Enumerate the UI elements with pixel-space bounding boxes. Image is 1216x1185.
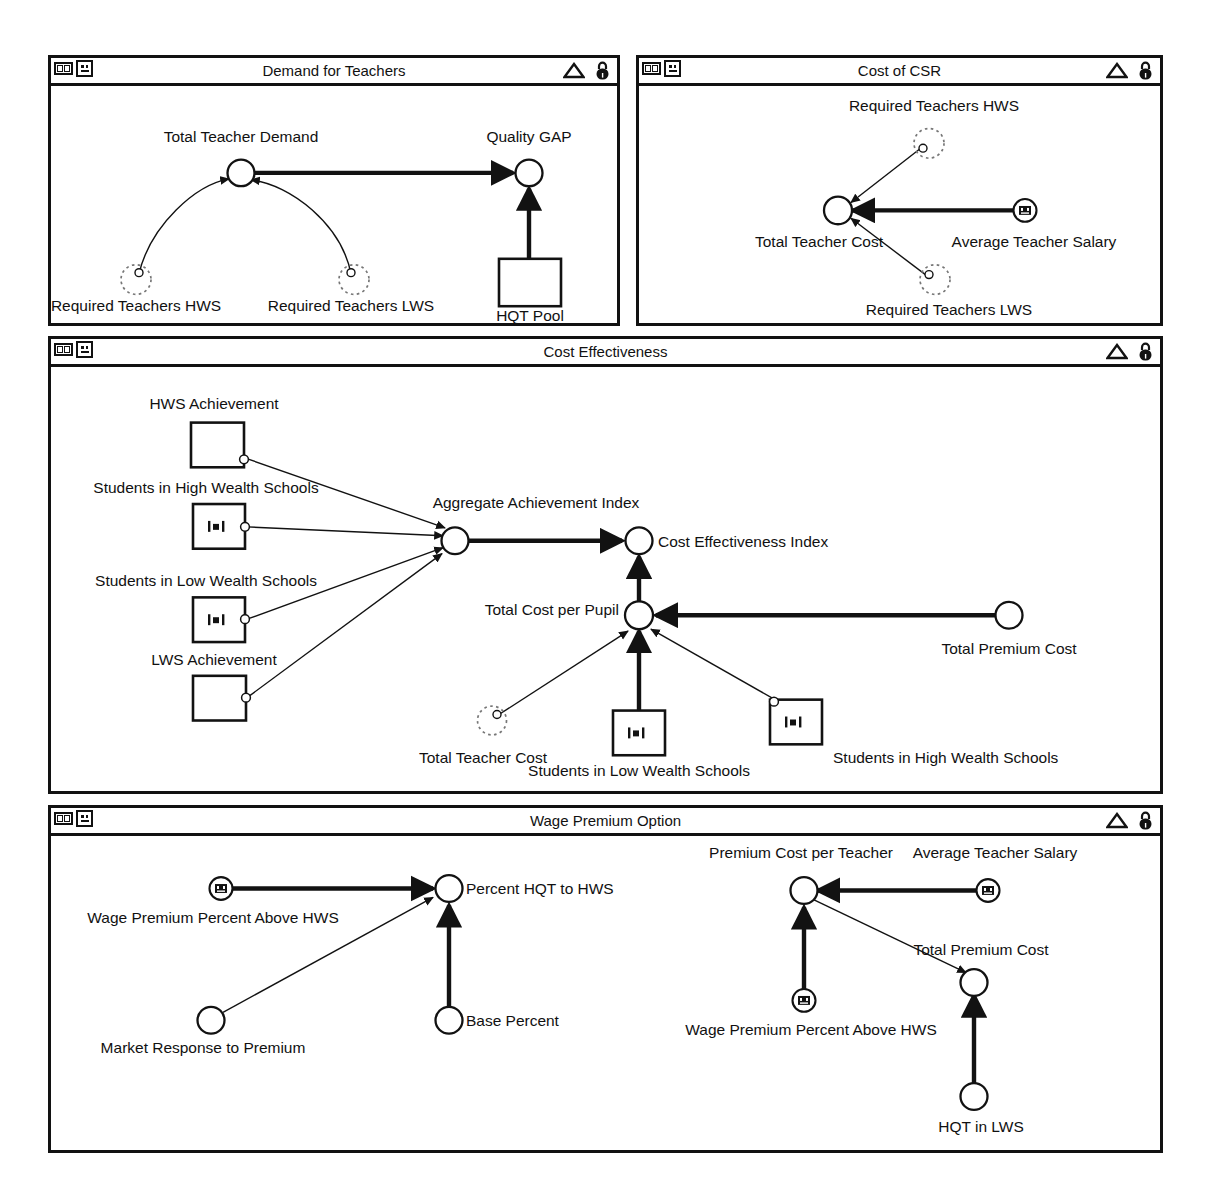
label-required-teachers-hws: Required Teachers HWS bbox=[51, 297, 221, 314]
port-required-teachers-lws bbox=[347, 269, 355, 277]
link-ttc-to-tcpp bbox=[499, 631, 628, 714]
label-required-teachers-hws: Required Teachers HWS bbox=[849, 97, 1019, 114]
label-lws-achievement: LWS Achievement bbox=[151, 651, 277, 668]
panel-title: Wage Premium Option bbox=[51, 808, 1160, 833]
titlebar-right-icons bbox=[1106, 811, 1154, 830]
label-average-teacher-salary: Average Teacher Salary bbox=[913, 844, 1078, 861]
node-premium-cost-per-teacher[interactable] bbox=[791, 877, 818, 904]
node-total-teacher-demand[interactable] bbox=[228, 160, 255, 187]
label-hws-achievement: HWS Achievement bbox=[149, 395, 279, 412]
diagram-canvas: Demand for Teachers bbox=[0, 0, 1216, 1185]
titlebar-right-icons bbox=[563, 61, 611, 80]
lock-icon[interactable] bbox=[1137, 342, 1154, 361]
link-studentshws2-to-tcpp bbox=[651, 629, 775, 700]
node-hqt-pool[interactable] bbox=[499, 259, 561, 306]
node-total-cost-per-pupil[interactable] bbox=[625, 601, 653, 629]
label-average-teacher-salary: Average Teacher Salary bbox=[952, 233, 1117, 250]
label-aggregate-achievement-index: Aggregate Achievement Index bbox=[433, 494, 640, 511]
label-students-high-wealth-schools-2: Students in High Wealth Schools bbox=[833, 749, 1059, 766]
link-studentshws1-to-aai bbox=[247, 527, 443, 536]
node-total-premium-cost[interactable] bbox=[961, 969, 988, 996]
node-hws-achievement[interactable] bbox=[191, 423, 248, 468]
label-students-high-wealth-schools-1: Students in High Wealth Schools bbox=[93, 479, 319, 496]
label-students-low-wealth-schools-1: Students in Low Wealth Schools bbox=[95, 572, 317, 589]
triangle-icon[interactable] bbox=[563, 62, 585, 79]
node-required-teachers-lws-ghost[interactable] bbox=[920, 265, 950, 295]
label-total-teacher-demand: Total Teacher Demand bbox=[164, 128, 319, 145]
node-students-low-wealth-schools-2[interactable] bbox=[613, 711, 665, 756]
label-total-premium-cost: Total Premium Cost bbox=[913, 941, 1049, 958]
panel-title: Cost of CSR bbox=[639, 58, 1160, 83]
label-hqt-in-lws: HQT in LWS bbox=[938, 1118, 1023, 1135]
port-students-hws-1 bbox=[241, 522, 250, 531]
label-wage-premium-percent-above-hws-1: Wage Premium Percent Above HWS bbox=[87, 909, 338, 926]
label-total-premium-cost: Total Premium Cost bbox=[941, 640, 1077, 657]
node-students-low-wealth-schools-1[interactable] bbox=[193, 597, 249, 642]
node-base-percent[interactable] bbox=[436, 1007, 463, 1034]
node-quality-gap[interactable] bbox=[516, 160, 543, 187]
panel-titlebar[interactable]: Cost of CSR bbox=[639, 58, 1160, 86]
label-market-response-to-premium: Market Response to Premium bbox=[101, 1039, 306, 1056]
node-total-premium-cost[interactable] bbox=[996, 602, 1023, 629]
label-students-low-wealth-schools-2: Students in Low Wealth Schools bbox=[528, 762, 750, 779]
link-hws-to-demand bbox=[139, 179, 229, 274]
link-rthws-to-ttc bbox=[851, 147, 922, 202]
node-aggregate-achievement-index[interactable] bbox=[442, 527, 469, 554]
port-hws-achievement bbox=[240, 455, 249, 464]
label-cost-effectiveness-index: Cost Effectiveness Index bbox=[658, 533, 828, 550]
titlebar-right-icons bbox=[1106, 342, 1154, 361]
label-premium-cost-per-teacher: Premium Cost per Teacher bbox=[709, 844, 893, 861]
port-lws-achievement bbox=[242, 693, 251, 702]
panel-titlebar[interactable]: Cost Effectiveness bbox=[51, 339, 1160, 367]
triangle-icon[interactable] bbox=[1106, 343, 1128, 360]
panel-canvas-cost-of-csr[interactable]: Required Teachers HWS Total Teacher Cost… bbox=[639, 86, 1160, 323]
node-students-high-wealth-schools-2[interactable] bbox=[770, 697, 822, 744]
lock-icon[interactable] bbox=[1137, 61, 1154, 80]
port-total-teacher-cost bbox=[493, 711, 501, 719]
node-percent-hqt-to-hws[interactable] bbox=[436, 875, 463, 902]
panel-canvas-cost-effectiveness[interactable]: HWS Achievement Students in High Wealth … bbox=[51, 367, 1160, 791]
panel-titlebar[interactable]: Demand for Teachers bbox=[51, 58, 617, 86]
node-lws-achievement[interactable] bbox=[193, 676, 250, 721]
node-hqt-in-lws[interactable] bbox=[961, 1083, 988, 1110]
link-lws-to-demand bbox=[251, 180, 351, 274]
panel-demand-for-teachers[interactable]: Demand for Teachers bbox=[48, 55, 620, 326]
label-total-cost-per-pupil: Total Cost per Pupil bbox=[485, 601, 619, 618]
link-premiumcost-to-totalpremium bbox=[813, 899, 966, 972]
label-percent-hqt-to-hws: Percent HQT to HWS bbox=[466, 881, 614, 898]
node-wage-premium-percent-above-hws-2[interactable] bbox=[793, 989, 816, 1012]
triangle-icon[interactable] bbox=[1106, 62, 1128, 79]
label-hqt-pool: HQT Pool bbox=[496, 307, 564, 323]
label-base-percent: Base Percent bbox=[466, 1012, 560, 1029]
panel-title: Cost Effectiveness bbox=[51, 339, 1160, 364]
panel-cost-effectiveness[interactable]: Cost Effectiveness bbox=[48, 336, 1163, 794]
lock-icon[interactable] bbox=[1137, 811, 1154, 830]
node-required-teachers-hws-ghost[interactable] bbox=[914, 128, 944, 158]
port-students-lws-1 bbox=[241, 615, 250, 624]
label-quality-gap: Quality GAP bbox=[486, 128, 571, 145]
port-required-teachers-lws bbox=[925, 271, 933, 279]
panel-title: Demand for Teachers bbox=[51, 58, 617, 83]
node-wage-premium-percent-above-hws-1[interactable] bbox=[210, 877, 233, 900]
node-students-high-wealth-schools-1[interactable] bbox=[193, 504, 249, 549]
label-required-teachers-lws: Required Teachers LWS bbox=[866, 301, 1032, 318]
label-wage-premium-percent-above-hws-2: Wage Premium Percent Above HWS bbox=[685, 1021, 936, 1038]
port-students-hws-2 bbox=[770, 697, 779, 706]
label-required-teachers-lws: Required Teachers LWS bbox=[268, 297, 434, 314]
titlebar-right-icons bbox=[1106, 61, 1154, 80]
port-required-teachers-hws bbox=[135, 269, 143, 277]
panel-cost-of-csr[interactable]: Cost of CSR bbox=[636, 55, 1163, 326]
panel-titlebar[interactable]: Wage Premium Option bbox=[51, 808, 1160, 836]
node-cost-effectiveness-index[interactable] bbox=[626, 527, 653, 554]
node-total-teacher-cost[interactable] bbox=[824, 197, 852, 225]
node-total-teacher-cost-ghost[interactable] bbox=[478, 706, 507, 735]
panel-wage-premium-option[interactable]: Wage Premium Option bbox=[48, 805, 1163, 1153]
panel-canvas-wage-premium-option[interactable]: Wage Premium Percent Above HWS Percent H… bbox=[51, 836, 1160, 1150]
node-market-response-to-premium[interactable] bbox=[198, 1007, 225, 1034]
node-average-teacher-salary[interactable] bbox=[977, 879, 1000, 902]
lock-icon[interactable] bbox=[594, 61, 611, 80]
node-average-teacher-salary[interactable] bbox=[1014, 199, 1037, 222]
label-total-teacher-cost: Total Teacher Cost bbox=[755, 233, 884, 250]
panel-canvas-demand-for-teachers[interactable]: Total Teacher Demand Quality GAP Require… bbox=[51, 86, 617, 323]
triangle-icon[interactable] bbox=[1106, 812, 1128, 829]
